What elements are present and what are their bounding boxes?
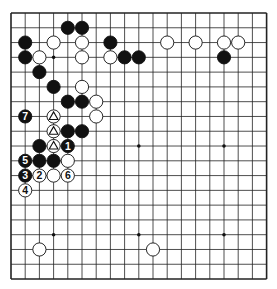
move-number-label: 2 (36, 169, 42, 181)
white-stone (232, 36, 245, 49)
white-stone (47, 36, 60, 49)
black-stone: 3 (19, 169, 32, 182)
white-stone (90, 110, 103, 123)
black-stone (19, 36, 32, 49)
move-number-label: 1 (65, 140, 71, 152)
star-point (137, 233, 141, 237)
black-stone (61, 95, 74, 108)
black-stone (33, 154, 46, 167)
black-stone (75, 95, 88, 108)
white-stone (161, 36, 174, 49)
star-point (222, 233, 226, 237)
black-stone (61, 21, 74, 34)
star-point (222, 144, 226, 148)
star-point (137, 144, 141, 148)
black-stone: 7 (19, 110, 32, 123)
white-stone (47, 125, 60, 138)
black-stone (75, 21, 88, 34)
black-stone (217, 51, 230, 64)
move-number-label: 4 (22, 184, 28, 196)
move-number-label: 7 (22, 110, 28, 122)
black-stone (132, 51, 145, 64)
black-stone (61, 125, 74, 138)
black-stone (33, 66, 46, 79)
white-stone (75, 36, 88, 49)
move-number-label: 5 (22, 154, 28, 166)
white-stone (146, 243, 159, 256)
black-stone (47, 154, 60, 167)
go-board: 7153264 (0, 0, 277, 289)
black-stone (47, 80, 60, 93)
move-number-label: 6 (65, 169, 71, 181)
white-stone (47, 139, 60, 152)
white-stone (33, 243, 46, 256)
white-stone (61, 154, 74, 167)
white-stone (104, 51, 117, 64)
white-stone (33, 51, 46, 64)
star-point (52, 233, 56, 237)
white-stone (90, 95, 103, 108)
black-stone (75, 125, 88, 138)
white-stone (75, 80, 88, 93)
white-stone: 6 (61, 169, 74, 182)
white-stone (47, 169, 60, 182)
white-stone (217, 36, 230, 49)
move-number-label: 3 (22, 169, 28, 181)
black-stone: 5 (19, 154, 32, 167)
white-stone: 2 (33, 169, 46, 182)
black-stone (19, 51, 32, 64)
black-stone: 1 (61, 139, 74, 152)
white-stone (47, 110, 60, 123)
black-stone (118, 51, 131, 64)
white-stone: 4 (19, 184, 32, 197)
white-stone (75, 51, 88, 64)
star-point (52, 56, 56, 60)
black-stone (33, 139, 46, 152)
white-stone (189, 36, 202, 49)
black-stone (104, 36, 117, 49)
